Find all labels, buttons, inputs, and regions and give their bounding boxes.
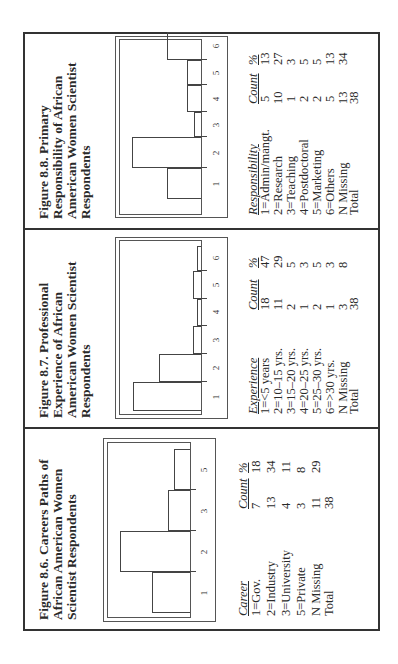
- tick-label: 5: [199, 460, 209, 480]
- axis-tick: [201, 167, 207, 168]
- tick-label: 4: [211, 89, 221, 109]
- figure-title: Figure 8.7. Professional Experience of A…: [37, 233, 93, 418]
- axis-tick: [201, 84, 207, 85]
- bar-2: [159, 354, 201, 382]
- axis-tick: [201, 111, 207, 112]
- chart-plot-area: 1 2 3 4 5 6: [119, 240, 202, 415]
- axis-tick: [201, 298, 207, 299]
- axis-tick: [190, 489, 196, 490]
- axis-tick: [201, 136, 207, 137]
- axis-tick: [201, 325, 207, 326]
- tick-label: 3: [199, 501, 209, 521]
- bar-2: [132, 137, 201, 168]
- bar-1: [167, 168, 201, 199]
- bar-5: [193, 271, 201, 299]
- axis-tick: [190, 571, 196, 572]
- tick-label: 1: [211, 387, 221, 407]
- tick-label: 2: [211, 358, 221, 378]
- bar-2: [120, 531, 190, 572]
- figure-title: Figure 8.6. Careers Paths of African Ame…: [37, 435, 79, 620]
- legend-table: Responsibility Count % 1=Admin/mangt. 5 …: [247, 30, 372, 215]
- bar-5: [174, 449, 190, 490]
- chart-plot-area: 1 2 3 4 5 6: [119, 39, 202, 215]
- bar-1: [152, 572, 190, 613]
- tick-label: 5: [211, 275, 221, 295]
- axis-tick: [201, 353, 207, 354]
- bar-1: [133, 382, 201, 411]
- tick-label: 6: [211, 36, 221, 56]
- tick-label: 1: [211, 174, 221, 194]
- figure-title: Figure 8.8. Primary Responsibility of Af…: [37, 34, 93, 219]
- panel-figure-8-6: Figure 8.6. Careers Paths of African Ame…: [25, 429, 378, 629]
- axis-tick: [201, 270, 207, 271]
- tick-label: 1: [199, 583, 209, 603]
- tick-label: 4: [211, 302, 221, 322]
- tick-label: 6: [211, 248, 221, 268]
- axis-tick: [201, 59, 207, 60]
- tick-label: 2: [199, 542, 209, 562]
- axis-tick: [201, 381, 207, 382]
- tick-label: 3: [211, 115, 221, 135]
- bar-3: [168, 490, 190, 531]
- bar-5: [187, 60, 201, 85]
- bar-6: [167, 32, 201, 60]
- tick-label: 3: [211, 330, 221, 350]
- chart-plot-area: 1 2 3 5: [107, 442, 191, 618]
- bar-6: [197, 246, 201, 271]
- bar-3: [194, 112, 201, 137]
- panel-figure-8-8: Figure 8.8. Primary Responsibility of Af…: [25, 30, 378, 230]
- axis-tick: [190, 530, 196, 531]
- bar-4: [197, 299, 201, 326]
- figure-sheet: Figure 8.6. Careers Paths of African Ame…: [23, 32, 380, 631]
- bar-4: [187, 85, 201, 112]
- tick-label: 2: [211, 143, 221, 163]
- panel-figure-8-7: Figure 8.7. Professional Experience of A…: [25, 230, 378, 429]
- legend-table: Experience Count % 1=<5 years 18 47 2=10…: [247, 234, 372, 414]
- legend-table: Career Count % 1=Gov. 7 18 2=Industry 13…: [237, 436, 357, 616]
- tick-label: 5: [211, 63, 221, 83]
- bar-3: [193, 326, 201, 354]
